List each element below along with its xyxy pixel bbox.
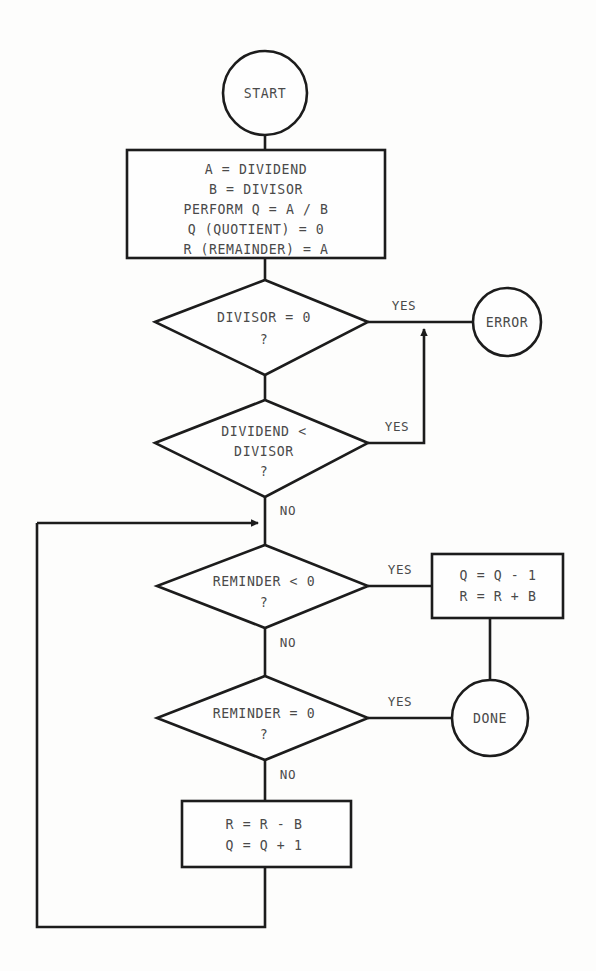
edge-label-reminder-eq-zero-no: NO <box>280 767 296 782</box>
edge-label-reminder-lt-zero-no: NO <box>280 635 296 650</box>
node-subtract-process[interactable]: R = R - B Q = Q + 1 <box>182 801 351 867</box>
node-error[interactable]: ERROR <box>473 288 541 356</box>
edge-label-dividend-lt-divisor-no: NO <box>280 503 296 518</box>
reminder-eq-zero-line-2: ? <box>260 727 269 742</box>
divisor-zero-diamond[interactable] <box>155 280 368 375</box>
reminder-lt-zero-line-1: REMINDER < 0 <box>213 574 315 589</box>
flowchart-svg: START A = DIVIDEND B = DIVISOR PERFORM Q… <box>0 0 596 971</box>
flowchart-canvas: START A = DIVIDEND B = DIVISOR PERFORM Q… <box>0 0 596 971</box>
divisor-zero-line-2: ? <box>260 332 269 347</box>
error-label: ERROR <box>486 315 529 330</box>
init-line-3: PERFORM Q = A / B <box>183 202 328 217</box>
init-line-4: Q (QUOTIENT) = 0 <box>188 222 325 237</box>
dividend-lt-divisor-line-1: DIVIDEND < <box>221 424 306 439</box>
subtract-box[interactable] <box>182 801 351 867</box>
node-done[interactable]: DONE <box>452 680 528 756</box>
reminder-lt-zero-line-2: ? <box>260 595 269 610</box>
correct-line-2: R = R + B <box>460 589 537 604</box>
node-start[interactable]: START <box>223 51 307 135</box>
node-init-process[interactable]: A = DIVIDEND B = DIVISOR PERFORM Q = A /… <box>127 150 385 258</box>
node-decision-reminder-eq-zero[interactable]: REMINDER = 0 ? <box>157 676 368 760</box>
edge-label-reminder-eq-zero-yes: YES <box>388 694 413 709</box>
edge-label-reminder-lt-zero-yes: YES <box>388 562 413 577</box>
correct-box[interactable] <box>432 554 563 618</box>
node-correct-process[interactable]: Q = Q - 1 R = R + B <box>432 554 563 618</box>
dividend-lt-divisor-line-3: ? <box>260 464 269 479</box>
reminder-eq-zero-line-1: REMINDER = 0 <box>213 706 315 721</box>
init-line-2: B = DIVISOR <box>209 182 303 197</box>
edge-label-divisor-zero-yes: YES <box>392 298 417 313</box>
edge-label-dividend-lt-divisor-yes: YES <box>385 419 410 434</box>
node-decision-reminder-lt-zero[interactable]: REMINDER < 0 ? <box>157 545 368 628</box>
start-label: START <box>244 86 287 101</box>
init-line-5: R (REMAINDER) = A <box>183 242 328 257</box>
node-decision-divisor-zero[interactable]: DIVISOR = 0 ? <box>155 280 368 375</box>
node-decision-dividend-lt-divisor[interactable]: DIVIDEND < DIVISOR ? <box>155 400 368 497</box>
done-label: DONE <box>473 711 507 726</box>
correct-line-1: Q = Q - 1 <box>460 568 537 583</box>
subtract-line-2: Q = Q + 1 <box>226 838 303 853</box>
subtract-line-1: R = R - B <box>226 817 303 832</box>
divisor-zero-line-1: DIVISOR = 0 <box>217 310 311 325</box>
dividend-lt-divisor-line-2: DIVISOR <box>234 444 294 459</box>
init-line-1: A = DIVIDEND <box>205 162 307 177</box>
